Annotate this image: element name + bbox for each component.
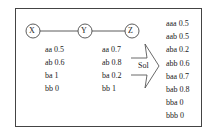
node-y-label: Y (81, 26, 87, 36)
result-row: aab 0.5 (166, 32, 190, 45)
table-yz: aa 0.7 ab 0.8 ba 0.2 bb 1 (102, 45, 122, 97)
table-xy: aa 0.5 ab 0.6 ba 1 bb 0 (45, 45, 65, 97)
node-z-label: Z (128, 26, 133, 36)
table-row: aa 0.5 (45, 45, 65, 58)
result-row: bba 0 (166, 98, 190, 111)
node-x-label: X (29, 26, 35, 36)
table-row: ba 1 (45, 71, 65, 84)
table-row: ab 0.8 (102, 58, 122, 71)
result-row: abb 0.6 (166, 59, 190, 72)
table-row: ab 0.6 (45, 58, 65, 71)
arrow-label: Sol (138, 61, 149, 71)
table-row: ba 0.2 (102, 71, 122, 84)
result-row: aba 0.2 (166, 45, 190, 58)
result-table: aaa 0.5 aab 0.5 aba 0.2 abb 0.6 baa 0.7 … (166, 19, 190, 125)
result-row: aaa 0.5 (166, 19, 190, 32)
table-row: bb 0 (45, 84, 65, 97)
result-row: bbb 0 (166, 111, 190, 124)
table-row: bb 1 (102, 84, 122, 97)
table-row: aa 0.7 (102, 45, 122, 58)
result-row: baa 0.7 (166, 72, 190, 85)
result-row: bab 0.8 (166, 85, 190, 98)
